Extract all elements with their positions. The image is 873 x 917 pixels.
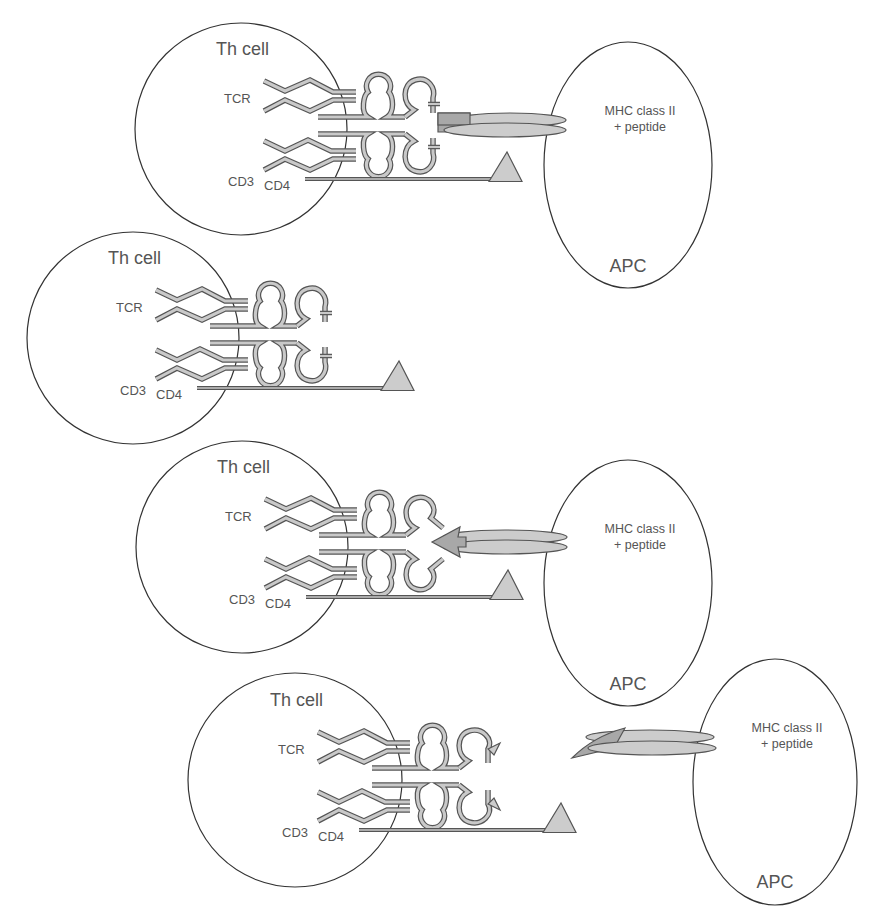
panels-root: MHC class II+ peptideAPCTh cellTCRCD3CD4…	[27, 23, 857, 905]
mhc-label-line1: MHC class II	[605, 522, 676, 536]
tcr-alpha-chain	[210, 283, 297, 326]
th-cell-label: Th cell	[108, 248, 161, 268]
panel-2: Th cellTCRCD3CD4	[27, 232, 414, 444]
mhc-label-line1: MHC class II	[752, 721, 823, 735]
panel-1: MHC class II+ peptideAPCTh cellTCRCD3CD4	[135, 23, 712, 288]
tcr-label: TCR	[224, 91, 251, 106]
cd3-chain-3	[265, 558, 357, 569]
cd3-label: CD3	[228, 174, 254, 189]
tcr-label: TCR	[116, 300, 143, 315]
cd4-domain-upper	[459, 730, 490, 768]
tcr-alpha-chain	[319, 492, 406, 535]
mhc-complex	[438, 113, 566, 137]
cd3-label: CD3	[229, 592, 255, 607]
mhc-label-line2: + peptide	[614, 120, 666, 134]
mhc-beta-chain	[588, 741, 716, 755]
tcr-alpha-chain	[372, 725, 459, 768]
cd4-triangle-domain	[543, 803, 576, 833]
tcr-alpha-chain	[318, 74, 405, 117]
cd3-chain-1	[265, 498, 357, 510]
cd4-label: CD4	[156, 387, 182, 402]
apc-cell	[693, 659, 857, 905]
mhc-beta-chain	[444, 123, 566, 137]
tcr-label: TCR	[225, 509, 252, 524]
tcr-cd3-cd4-complex: TCRCD3CD4	[278, 725, 576, 844]
cd4-label: CD4	[264, 178, 290, 193]
tcr-label: TCR	[278, 742, 305, 757]
cd3-chain-4	[156, 368, 248, 379]
cd4-triangle-domain	[381, 361, 414, 391]
tcr-beta-chain	[319, 552, 406, 595]
apc-cell	[544, 42, 712, 288]
panel-4: MHC class II+ peptideAPCTh cellTCRCD3CD4	[188, 659, 857, 905]
cd4-label: CD4	[318, 829, 344, 844]
apc-label: APC	[609, 674, 646, 694]
cd3-chain-2	[318, 751, 410, 762]
cd4-triangle-domain	[490, 570, 523, 600]
cd3-chain-3	[318, 791, 410, 802]
th-cell-label: Th cell	[270, 690, 323, 710]
cd3-label: CD3	[120, 383, 146, 398]
cd4-domain-upper	[406, 497, 443, 535]
th-cell-label: Th cell	[217, 457, 270, 477]
cd4-domain-lower	[406, 552, 443, 590]
peptide-block-top	[438, 113, 470, 125]
mhc-label-line2: + peptide	[761, 737, 813, 751]
mhc-label-line2: + peptide	[614, 538, 666, 552]
cd3-label: CD3	[282, 825, 308, 840]
cd3-chain-1	[264, 80, 356, 92]
cd4-label: CD4	[265, 596, 291, 611]
tcr-mhc-interaction-diagram: MHC class II+ peptideAPCTh cellTCRCD3CD4…	[0, 0, 873, 917]
cd4-triangle-domain	[489, 152, 522, 182]
cd4-domain-upper	[297, 288, 326, 326]
cd3-chain-2	[265, 518, 357, 529]
cd4-domain-lower	[405, 134, 434, 172]
tcr-beta-chain	[210, 343, 297, 386]
cd3-chain-2	[156, 309, 248, 320]
cd3-chain-1	[318, 731, 410, 743]
apc-label: APC	[609, 256, 646, 276]
apc-cell	[544, 460, 712, 706]
cd3-chain-2	[264, 100, 356, 111]
tcr-beta-chain	[372, 785, 459, 828]
cd3-chain-3	[156, 349, 248, 360]
cd4-domain-upper	[405, 79, 434, 117]
mhc-complex	[432, 527, 567, 557]
panel-3: MHC class II+ peptideAPCTh cellTCRCD3CD4	[136, 441, 712, 706]
cd3-chain-4	[265, 577, 357, 588]
tcr-cd3-cd4-complex: TCRCD3CD4	[116, 283, 414, 402]
cd3-chain-4	[264, 159, 356, 170]
cd3-chain-3	[264, 140, 356, 151]
tcr-beta-chain	[318, 134, 405, 177]
th-cell-label: Th cell	[216, 39, 269, 59]
mhc-label-line1: MHC class II	[605, 104, 676, 118]
cd3-chain-1	[156, 289, 248, 301]
cd4-domain-lower	[297, 343, 326, 381]
apc-label: APC	[756, 872, 793, 892]
cd4-domain-lower	[459, 785, 490, 823]
mhc-complex	[572, 728, 716, 758]
